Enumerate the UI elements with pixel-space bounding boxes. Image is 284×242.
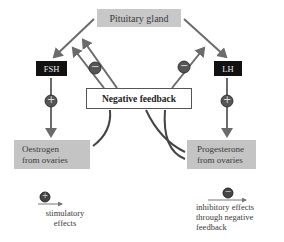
pituitary-gland-node: Pituitary gland [97,9,181,27]
progesterone-node: Progesterone from ovaries [187,140,256,169]
lh-node: LH [214,61,242,76]
minus-icon: − [91,61,99,72]
pituitary-label: Pituitary gland [109,13,168,24]
minus-icon: − [180,60,188,71]
plus-icon: + [223,94,231,105]
fsh-node: FSH [36,61,67,76]
curve-progesterone-2 [165,110,185,159]
legend-minus-icon: − [224,187,232,196]
arrow-pituitary-to-lh [184,19,226,57]
negative-feedback-label: Negative feedback [102,94,176,104]
legend-inhibitory-line2: through negative [196,212,276,222]
progesterone-label-line2: from ovaries [197,155,243,166]
feedback-arrow-left-2 [83,40,117,88]
legend-inhibitory: inhibitory effects through negative feed… [196,202,276,232]
oestrogen-label-line2: from ovaries [22,155,68,166]
legend-inhibitory-line1: inhibitory effects [196,202,276,212]
legend-stimulatory-line2: effects [36,218,94,228]
fsh-label: FSH [44,64,60,74]
oestrogen-node: Oestrogen from ovaries [14,140,90,169]
plus-icon: + [47,94,55,105]
curve-oestrogen [93,110,110,146]
legend-stimulatory-line1: stimulatory [36,208,94,218]
arrow-pituitary-to-fsh [54,19,94,57]
progesterone-label-line1: Progesterone [197,144,244,155]
oestrogen-label-line1: Oestrogen [22,144,59,155]
legend-inhibitory-line3: feedback [196,222,276,232]
legend-plus-icon: + [41,191,49,200]
lh-label: LH [222,64,233,74]
negative-feedback-node: Negative feedback [86,88,192,109]
legend-stimulatory: stimulatory effects [36,208,94,228]
